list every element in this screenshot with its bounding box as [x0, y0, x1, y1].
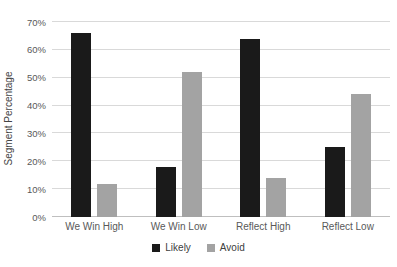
- bar-likely-reflect-low: [325, 147, 345, 217]
- y-tick-label: 40%: [0, 100, 46, 111]
- gridline: [52, 132, 390, 133]
- x-tick-label: We Win High: [52, 221, 137, 232]
- x-tick-label: We Win Low: [137, 221, 222, 232]
- gridline: [52, 105, 390, 106]
- legend-item-avoid: Avoid: [207, 242, 245, 253]
- y-tick-label: 10%: [0, 184, 46, 195]
- y-tick-label: 0%: [0, 212, 46, 223]
- x-tick-label: Reflect High: [221, 221, 306, 232]
- y-tick-label: 30%: [0, 128, 46, 139]
- legend-label: Avoid: [220, 242, 245, 253]
- legend: LikelyAvoid: [0, 242, 397, 253]
- y-tick-label: 20%: [0, 156, 46, 167]
- gridline: [52, 77, 390, 78]
- y-tick-label: 70%: [0, 17, 46, 28]
- bar-avoid-reflect-high: [266, 178, 286, 217]
- bar-avoid-we-win-low: [182, 72, 202, 217]
- y-tick-label: 60%: [0, 44, 46, 55]
- segment-percentage-bar-chart: Segment Percentage 0%10%20%30%40%50%60%7…: [0, 0, 397, 267]
- bar-avoid-reflect-low: [351, 94, 371, 217]
- gridline: [52, 49, 390, 50]
- bar-likely-we-win-low: [156, 167, 176, 217]
- plot-area: [52, 22, 390, 217]
- gridline: [52, 21, 390, 22]
- legend-item-likely: Likely: [152, 242, 191, 253]
- legend-label: Likely: [165, 242, 191, 253]
- bar-likely-we-win-high: [71, 33, 91, 217]
- bar-avoid-we-win-high: [97, 184, 117, 217]
- x-tick-label: Reflect Low: [306, 221, 391, 232]
- bar-likely-reflect-high: [240, 39, 260, 217]
- y-tick-label: 50%: [0, 72, 46, 83]
- legend-swatch-avoid: [207, 244, 215, 252]
- legend-swatch-likely: [152, 244, 160, 252]
